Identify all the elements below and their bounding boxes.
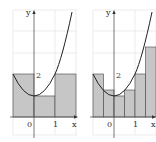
left-graph: y 2 0 1 x xyxy=(0,0,78,142)
right-graph: y 2 0 1 x xyxy=(78,0,156,142)
y-tick-2: 2 xyxy=(36,71,41,80)
left-graph-plot: y 2 0 1 x xyxy=(0,0,78,142)
right-graph-plot: y 2 0 1 x xyxy=(78,0,156,142)
y-axis-label: y xyxy=(105,8,111,17)
y-axis-label: y xyxy=(25,8,31,17)
riemann-rectangles xyxy=(93,47,156,117)
origin-label: 0 xyxy=(27,120,32,129)
x-axis-label: x xyxy=(72,120,77,129)
y-axis-arrow-icon xyxy=(32,10,35,14)
x-tick-1: 1 xyxy=(53,120,58,129)
y-axis-arrow-icon xyxy=(112,10,115,14)
x-axis-label: x xyxy=(151,120,156,129)
riemann-rectangles xyxy=(13,74,76,117)
origin-label: 0 xyxy=(107,120,112,129)
y-tick-2: 2 xyxy=(116,71,121,80)
x-tick-1: 1 xyxy=(133,120,138,129)
